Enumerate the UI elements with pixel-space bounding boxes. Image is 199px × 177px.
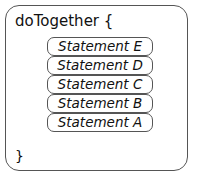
- block-closing-brace: }: [15, 148, 24, 164]
- statement-b: Statement B: [47, 94, 153, 113]
- statement-c: Statement C: [47, 75, 153, 94]
- statement-d: Statement D: [47, 56, 153, 75]
- block-header: doTogether {: [15, 12, 113, 30]
- statement-a: Statement A: [47, 113, 153, 132]
- statement-e: Statement E: [47, 37, 153, 56]
